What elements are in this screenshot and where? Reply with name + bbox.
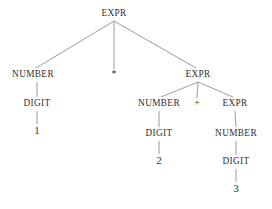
tree-node-number-left: NUMBER xyxy=(12,69,54,79)
tree-node-terminal-3: 3 xyxy=(233,182,239,194)
tree-node-expr-inner: EXPR xyxy=(222,98,248,108)
tree-node-digit-left: DIGIT xyxy=(23,98,50,108)
tree-edge xyxy=(161,82,198,97)
tree-node-terminal-2: 2 xyxy=(156,154,162,166)
tree-node-number-mid: NUMBER xyxy=(138,98,180,108)
tree-edge xyxy=(197,82,198,98)
tree-node-digit-mid: DIGIT xyxy=(145,128,172,138)
tree-node-number-inner: NUMBER xyxy=(215,128,257,138)
tree-edge xyxy=(114,21,196,68)
tree-edges xyxy=(36,21,236,182)
tree-edge xyxy=(36,21,114,68)
tree-edge xyxy=(235,111,236,127)
tree-edge xyxy=(198,82,233,97)
tree-node-op-times: * xyxy=(112,68,117,79)
tree-node-digit-inner: DIGIT xyxy=(222,156,249,166)
tree-node-expr-root: EXPR xyxy=(101,8,127,18)
parse-tree-canvas: EXPRNUMBER*EXPRDIGIT1NUMBER+EXPRDIGIT2NU… xyxy=(0,0,272,209)
parse-tree-figure: EXPRNUMBER*EXPRDIGIT1NUMBER+EXPRDIGIT2NU… xyxy=(0,0,272,209)
tree-nodes: EXPRNUMBER*EXPRDIGIT1NUMBER+EXPRDIGIT2NU… xyxy=(12,8,257,193)
tree-node-terminal-1: 1 xyxy=(34,124,40,136)
tree-node-op-plus: + xyxy=(194,97,200,108)
tree-node-expr-right: EXPR xyxy=(185,69,211,79)
